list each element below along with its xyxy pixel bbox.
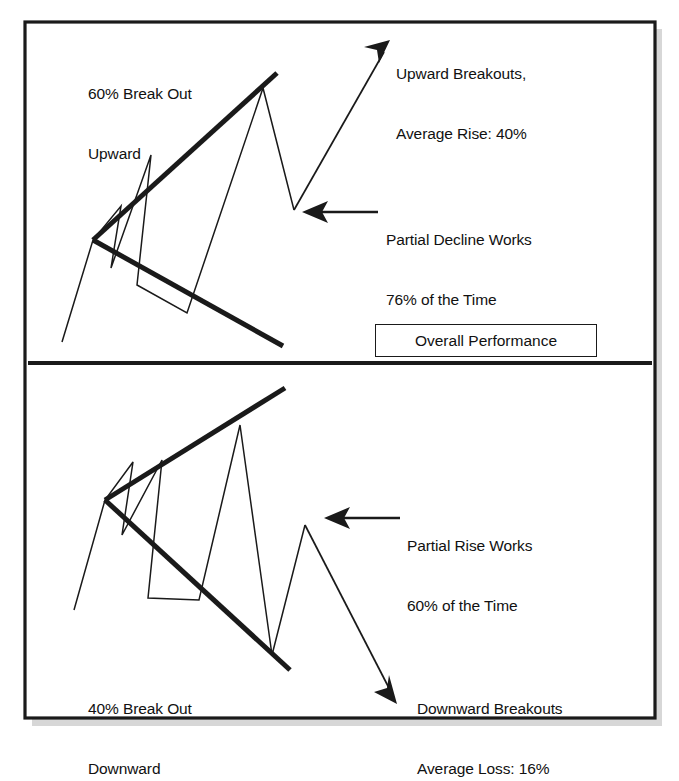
top-breakout-direction-line2: Upward (88, 144, 192, 164)
bottom-breakout-direction-label: 40% Break Out Downward (88, 659, 192, 781)
bottom-breakout-direction-line1: 40% Break Out (88, 699, 192, 719)
downward-breakout-result-line2: Average Loss: 16% (417, 759, 563, 779)
top-breakout-direction-line1: 60% Break Out (88, 84, 192, 104)
partial-decline-line1: Partial Decline Works (386, 230, 532, 250)
bottom-breakout-direction-line2: Downward (88, 759, 192, 779)
upward-breakout-result-line1: Upward Breakouts, (396, 64, 527, 84)
partial-decline-line2: 76% of the Time (386, 290, 532, 310)
overall-performance-callout: Overall Performance (375, 324, 597, 357)
overall-performance-label: Overall Performance (415, 332, 557, 350)
downward-breakout-result-line1: Downward Breakouts (417, 699, 563, 719)
downward-breakout-result-label: Downward Breakouts Average Loss: 16% (417, 659, 563, 781)
partial-rise-line2: 60% of the Time (407, 596, 532, 616)
partial-rise-line1: Partial Rise Works (407, 536, 532, 556)
top-breakout-direction-label: 60% Break Out Upward (88, 44, 192, 204)
upward-breakout-result-line2: Average Rise: 40% (396, 124, 527, 144)
partial-rise-label: Partial Rise Works 60% of the Time (407, 496, 532, 656)
upward-breakout-result-label: Upward Breakouts, Average Rise: 40% (396, 24, 527, 184)
